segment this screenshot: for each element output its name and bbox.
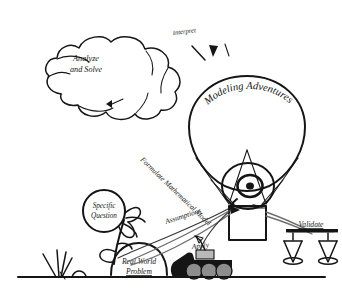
cloud-label-line1: Analyze [72, 54, 99, 63]
specific-question-line2: Question [91, 212, 117, 220]
specific-question-line1: Specific [93, 202, 117, 210]
cloud-label-line2: and Solve [70, 65, 102, 74]
validate-label: Validate [299, 220, 325, 229]
modeling-adventures-diagram: Analyze and Solve Interpret [0, 0, 342, 293]
diagram-canvas: Analyze and Solve Interpret [0, 0, 342, 293]
real-world-label-line2: Problem [125, 267, 152, 276]
